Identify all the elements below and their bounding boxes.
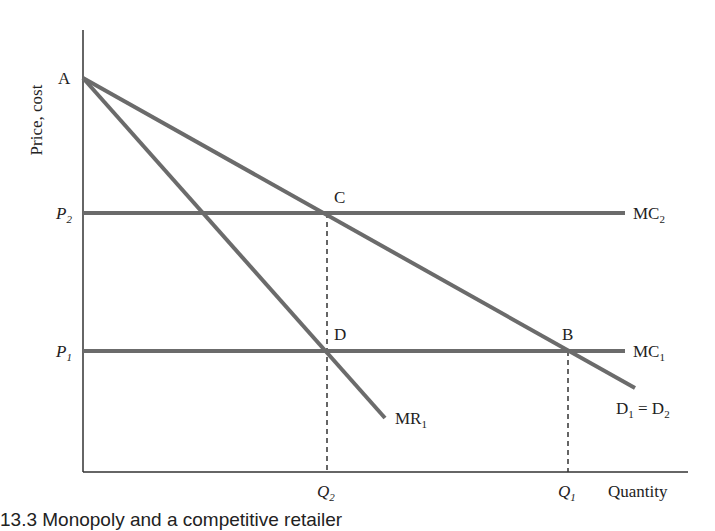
mr-line [83,78,385,418]
demand-line [83,78,635,388]
mc2-label: MC2 [633,204,665,225]
point-d-label: D [334,325,346,344]
p1-tick: P1 [55,342,72,363]
y-axis-label: Price, cost [27,84,46,155]
demand-label: D1 = D2 [616,399,670,420]
point-c-label: C [334,188,345,207]
mc1-label: MC1 [633,342,665,363]
point-b-label: B [562,325,573,344]
q2-tick: Q2 [317,482,335,503]
mr1-label: MR1 [395,409,427,430]
x-axis-label: Quantity [608,482,668,501]
p2-tick: P2 [55,204,72,225]
figure-caption: 13.3 Monopoly and a competitive retailer [0,509,342,531]
point-a-label: A [58,69,71,88]
q1-tick: Q1 [558,482,576,503]
